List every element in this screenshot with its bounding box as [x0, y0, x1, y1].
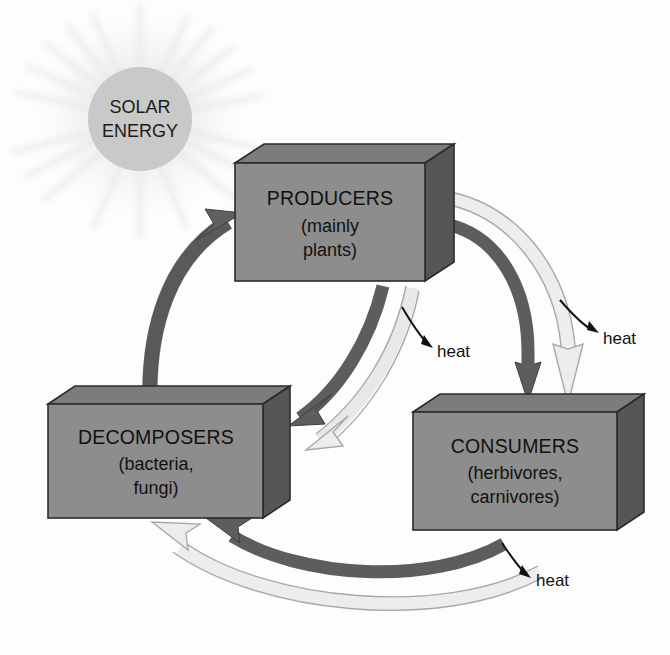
producers-side-face	[425, 144, 454, 281]
decomposers-subtitle-line2: fungi)	[133, 478, 178, 498]
decomposers-top-face	[48, 386, 290, 404]
producers-subtitle-line2: plants)	[303, 240, 357, 260]
diagram-svg: SOLAR ENERGY	[0, 0, 670, 655]
diagram-canvas: SOLAR ENERGY	[0, 0, 670, 655]
flow-decomposers-to-producers	[150, 209, 243, 402]
heat-label-producers-consumers: heat	[603, 329, 636, 348]
producers-top-face	[235, 144, 454, 163]
box-decomposers[interactable]: DECOMPOSERS (bacteria, fungi)	[48, 386, 290, 518]
decomposers-side-face	[263, 386, 290, 518]
producers-subtitle-line1: (mainly	[301, 216, 359, 236]
solar-energy-group: SOLAR ENERGY	[14, 0, 264, 236]
consumers-title: CONSUMERS	[451, 435, 580, 457]
flow-producers-to-decomposers-energy	[288, 286, 383, 426]
consumers-top-face	[413, 394, 644, 412]
heat-label-producers-decomposers: heat	[437, 342, 470, 361]
decomposers-subtitle-line1: (bacteria,	[118, 454, 193, 474]
flow-producers-to-decomposers-loss	[306, 286, 419, 450]
box-consumers[interactable]: CONSUMERS (herbivores, carnivores)	[413, 394, 644, 530]
heat-label-consumers-decomposers: heat	[536, 571, 569, 590]
decomposers-title: DECOMPOSERS	[78, 426, 234, 448]
sun-label-line1: SOLAR	[109, 97, 170, 117]
consumers-side-face	[617, 394, 644, 530]
heat-tick-consumers-decomposers	[502, 543, 531, 578]
consumers-subtitle-line2: carnivores)	[470, 487, 559, 507]
sun-label-line2: ENERGY	[102, 121, 178, 141]
producers-title: PRODUCERS	[267, 187, 393, 209]
consumers-subtitle-line1: (herbivores,	[467, 463, 562, 483]
box-producers[interactable]: PRODUCERS (mainly plants)	[235, 144, 454, 281]
sun-disc	[88, 67, 192, 171]
